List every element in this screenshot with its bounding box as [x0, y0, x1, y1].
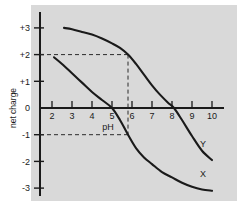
y-tick-label-+2: +2	[20, 50, 30, 60]
y-tick-label-0: 0	[25, 103, 30, 113]
x-tick-label-4: 4	[89, 111, 94, 121]
x-tick-label-10: 10	[207, 111, 217, 121]
x-axis-label: pH	[102, 122, 114, 132]
y-tick-label--1: -1	[22, 130, 30, 140]
curve-Y	[64, 28, 212, 160]
y-tick-label--3: -3	[22, 183, 30, 193]
y-tick-label-+3: +3	[20, 23, 30, 33]
y-tick-label--2: -2	[22, 157, 30, 167]
chart-canvas: +3+2+10-1-2-3 2345678910 pH net charge Y…	[0, 0, 249, 211]
curve-label-Y: Y	[200, 139, 206, 149]
x-tick-label-5: 5	[109, 111, 114, 121]
guide-lines	[40, 55, 128, 135]
y-axis-tick-labels: +3+2+10-1-2-3	[20, 23, 30, 193]
y-axis-label: net charge	[8, 88, 18, 128]
x-axis-ticks	[52, 101, 212, 108]
x-tick-label-3: 3	[69, 111, 74, 121]
y-tick-label-+1: +1	[20, 77, 30, 87]
data-curves	[54, 28, 212, 191]
x-axis-tick-labels: 2345678910	[49, 111, 217, 121]
x-tick-label-8: 8	[169, 111, 174, 121]
curve-labels: YX	[200, 139, 206, 180]
curve-label-X: X	[200, 169, 206, 179]
x-tick-label-7: 7	[149, 111, 154, 121]
curve-X	[54, 57, 212, 191]
chart-figure: +3+2+10-1-2-3 2345678910 pH net charge Y…	[0, 0, 249, 211]
x-tick-label-2: 2	[49, 111, 54, 121]
x-tick-label-6: 6	[129, 111, 134, 121]
x-tick-label-9: 9	[189, 111, 194, 121]
